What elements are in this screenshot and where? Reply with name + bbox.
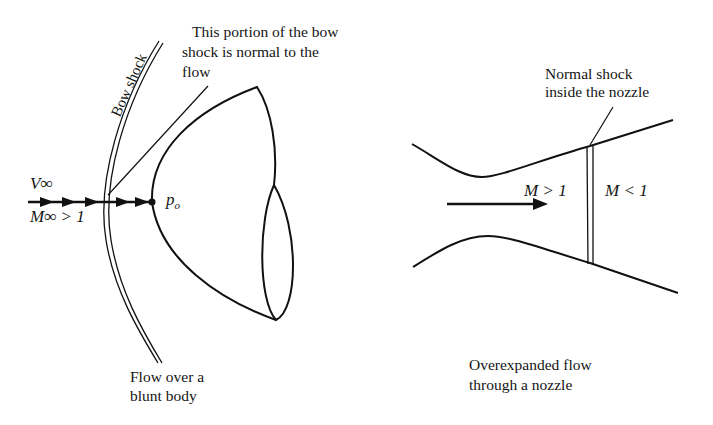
bow-callout-line3: flow (182, 62, 210, 81)
nozzle-callout-line2: inside the nozzle (545, 82, 649, 101)
left-caption-line2: blunt body (130, 386, 197, 405)
nozzle-walls (412, 120, 678, 293)
right-caption-line1: Overexpanded flow (469, 355, 592, 374)
normal-shock (587, 146, 593, 265)
left-caption-line1: Flow over a (130, 367, 204, 386)
nozzle-callout-line1: Normal shock (545, 64, 632, 83)
mach-label: M∞ > 1 (30, 207, 85, 226)
stagnation-pressure-label: po (166, 190, 180, 215)
velocity-label: V∞ (30, 174, 53, 193)
downstream-mach-label: M < 1 (605, 181, 648, 200)
freestream-streamline (28, 197, 156, 207)
upstream-mach-label: M > 1 (524, 181, 567, 200)
bow-callout-line1: This portion of the bow (192, 22, 338, 41)
bow-callout-line2: shock is normal to the (182, 42, 319, 61)
right-caption-line2: through a nozzle (469, 375, 572, 394)
